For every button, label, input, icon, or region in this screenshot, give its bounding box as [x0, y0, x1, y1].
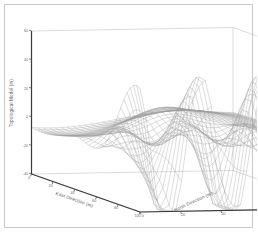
xtick-label: 60 — [92, 199, 96, 203]
xtick-label: 40 — [71, 191, 75, 195]
ztick-label: 60 — [24, 29, 28, 33]
ztick-label: 20 — [24, 87, 28, 91]
xtick-label: 20 — [49, 184, 53, 188]
y-axis-title: North Direction (m) — [173, 191, 213, 213]
figure-container: 6040200-20-40020406080100020406080100Top… — [0, 0, 257, 232]
xtick-label: 80 — [114, 206, 118, 210]
ytick-label: 20 — [181, 213, 185, 217]
surface-plot-3d: 6040200-20-40020406080100020406080100Top… — [0, 0, 257, 232]
z-axis-title: Topological Model (m) — [9, 79, 14, 127]
ytick-label: 0 — [142, 214, 144, 218]
ztick-label: 40 — [24, 58, 28, 62]
xtick-label: 0 — [28, 176, 30, 180]
ztick-label: -20 — [23, 144, 28, 148]
xtick-label: 100 — [135, 214, 141, 218]
ytick-label: 40 — [221, 212, 225, 216]
surface-wireframe — [32, 69, 258, 212]
ztick-label: 0 — [26, 115, 28, 119]
